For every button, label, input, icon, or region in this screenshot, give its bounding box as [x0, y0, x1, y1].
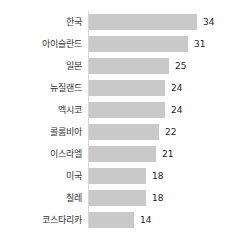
bar-fill	[89, 102, 165, 118]
bar	[89, 124, 159, 140]
plot-area: 한국34아이슬란드31일본25뉴질랜드24멕시코24콜롬비아22이스라엘21미국…	[0, 5, 234, 236]
bar	[89, 212, 134, 228]
bar-row: 멕시코24	[0, 99, 234, 121]
bar-fill	[89, 146, 156, 162]
bar-row: 코스타리카14	[0, 209, 234, 231]
bar	[89, 36, 188, 52]
bar-value-label: 24	[171, 99, 182, 121]
bar-category-label: 한국	[66, 11, 82, 33]
bar-fill	[89, 190, 146, 206]
bar	[89, 168, 146, 184]
bar-value-label: 18	[152, 187, 163, 209]
bar-value-label: 18	[152, 165, 163, 187]
bar-row: 콜롬비아22	[0, 121, 234, 143]
bar-chart: 한국34아이슬란드31일본25뉴질랜드24멕시코24콜롬비아22이스라엘21미국…	[0, 0, 234, 236]
bar-category-label: 멕시코	[58, 99, 82, 121]
bar-row: 미국18	[0, 165, 234, 187]
chart-title	[0, 0, 234, 3]
bar-value-label: 14	[140, 209, 151, 231]
bar-row: 아이슬란드31	[0, 33, 234, 55]
bar-category-label: 콜롬비아	[50, 121, 82, 143]
bar-category-label: 코스타리카	[42, 209, 82, 231]
bar-value-label: 21	[162, 143, 173, 165]
bar-fill	[89, 80, 165, 96]
bar-row: 칠레18	[0, 187, 234, 209]
bar-category-label: 일본	[66, 55, 82, 77]
bar-value-label: 24	[171, 77, 182, 99]
bar-row: 뉴질랜드24	[0, 77, 234, 99]
bar-value-label: 22	[165, 121, 176, 143]
bar-fill	[89, 168, 146, 184]
bar	[89, 80, 165, 96]
bar-fill	[89, 124, 159, 140]
bar-category-label: 이스라엘	[50, 143, 82, 165]
bar-value-label: 34	[203, 11, 214, 33]
bar	[89, 102, 165, 118]
bar-category-label: 뉴질랜드	[50, 77, 82, 99]
bar	[89, 146, 156, 162]
bar-category-label: 칠레	[66, 187, 82, 209]
bar-category-label: 아이슬란드	[42, 33, 82, 55]
bar-row: 일본25	[0, 55, 234, 77]
bar-fill	[89, 212, 134, 228]
bar	[89, 190, 146, 206]
bar	[89, 58, 169, 74]
bar-fill	[89, 14, 197, 30]
bar-row: 한국34	[0, 11, 234, 33]
bar-value-label: 25	[175, 55, 186, 77]
bar-fill	[89, 36, 188, 52]
bar	[89, 14, 197, 30]
bar-category-label: 미국	[66, 165, 82, 187]
bar-row: 이스라엘21	[0, 143, 234, 165]
bar-value-label: 31	[194, 33, 205, 55]
bar-fill	[89, 58, 169, 74]
